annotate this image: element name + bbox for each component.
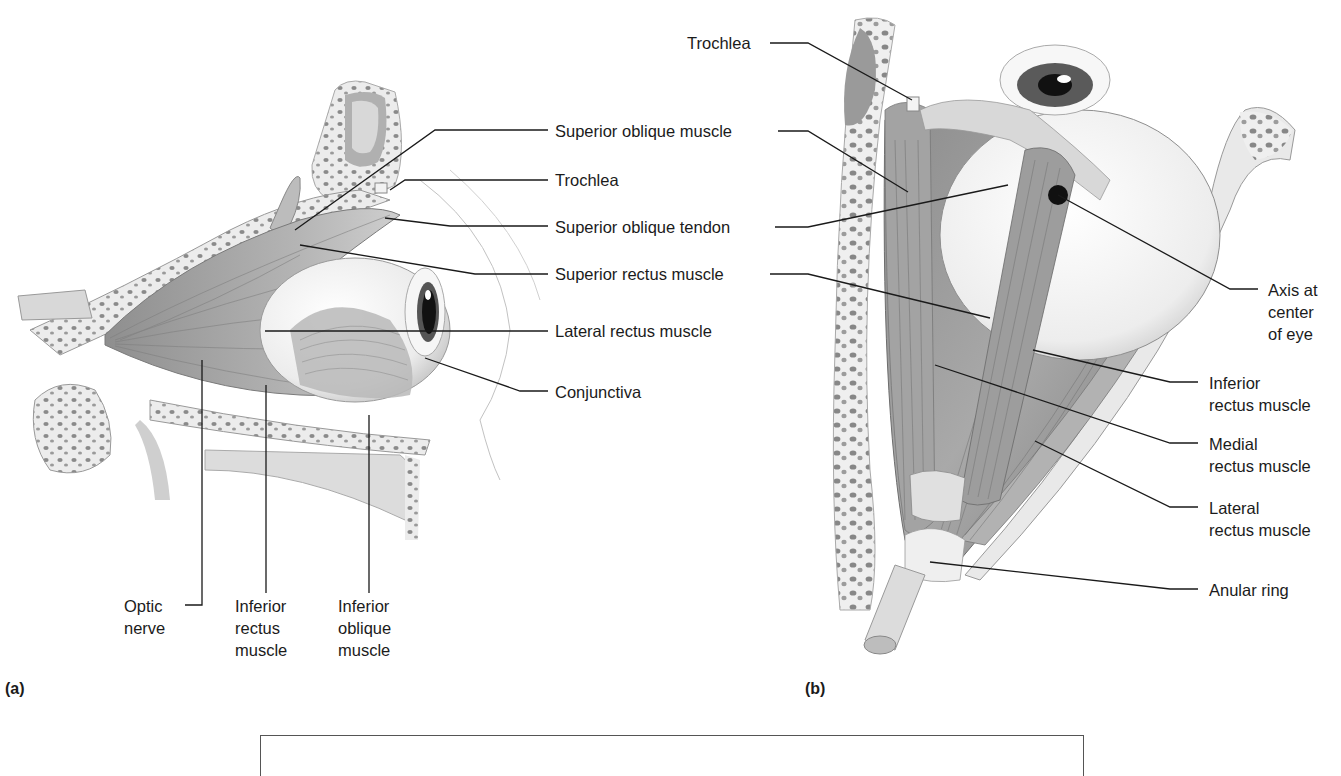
label-medial-rectus-muscle-b: Medial rectus muscle xyxy=(1209,433,1311,477)
label-line: rectus muscle xyxy=(1209,519,1311,541)
label-anular-ring-b: Anular ring xyxy=(1209,579,1289,601)
eyeball-b xyxy=(940,110,1220,360)
trochlea-b xyxy=(907,97,919,111)
anular-ring xyxy=(910,471,965,522)
label-line: Inferior xyxy=(1209,372,1311,394)
label-inferior-rectus-muscle-b: Inferior rectus muscle xyxy=(1209,372,1311,416)
label-lateral-rectus-muscle-b: Lateral rectus muscle xyxy=(1209,497,1311,541)
label-line: center xyxy=(1268,301,1318,323)
label-line: Axis at xyxy=(1268,279,1318,301)
label-trochlea-b: Trochlea xyxy=(687,32,751,54)
label-line: of eye xyxy=(1268,323,1318,345)
label-line: Medial xyxy=(1209,433,1311,455)
panel-tag-b: (b) xyxy=(805,680,825,698)
label-line: rectus muscle xyxy=(1209,394,1311,416)
label-line: Lateral xyxy=(1209,497,1311,519)
label-axis-at-center-of-eye-b: Axis at center of eye xyxy=(1268,279,1318,345)
caption-box xyxy=(260,735,1084,776)
label-line: rectus muscle xyxy=(1209,455,1311,477)
